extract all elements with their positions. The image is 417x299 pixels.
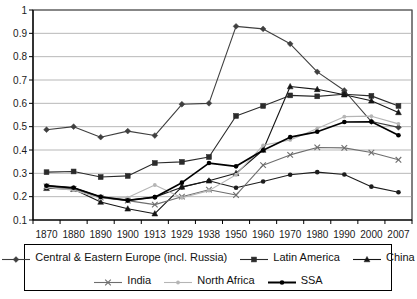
legend-row-secondary: IndiaNorth AfricaSSA [25,268,391,291]
data-point-marker [252,257,257,262]
data-point-marker [125,198,130,203]
data-point-marker [207,161,212,166]
data-point-marker [261,148,266,153]
data-point-marker [179,160,184,165]
data-point-marker [13,257,19,263]
legend-marker-triangle-icon [352,251,382,262]
legend-entry-india[interactable]: India [93,274,151,286]
x-axis-tick-label: 1890 [90,229,113,240]
data-point-marker [176,281,180,285]
data-point-marker [342,172,347,177]
data-point-marker [71,186,76,191]
x-axis-tick-label: 1960 [252,229,275,240]
x-axis-tick-label: 1990 [333,229,356,240]
plot-frame [33,10,412,220]
data-point-marker [234,173,238,177]
data-point-marker [288,172,293,177]
y-axis-tick-label: 0.8 [13,51,27,62]
data-point-marker [279,280,284,285]
data-point-marker [342,115,346,119]
data-point-marker [288,93,293,98]
data-point-marker [369,114,373,118]
legend-marker-dot-icon [163,274,193,285]
data-point-marker [234,164,239,169]
x-axis-tick-label: 1950 [225,229,248,240]
legend-entry-north-africa[interactable]: North Africa [163,274,254,286]
data-point-marker [396,190,401,195]
data-point-marker [288,135,293,140]
data-point-marker [125,174,130,179]
data-point-marker [261,104,266,109]
x-axis-tick-label: 1929 [171,229,194,240]
data-point-marker [71,169,76,174]
data-point-marker [44,170,49,175]
legend-entry-ssa[interactable]: SSA [267,274,323,286]
y-axis-tick-label: 0.5 [13,121,27,132]
x-axis-tick-label: 1880 [62,229,85,240]
y-axis-tick-label: 1 [21,5,27,16]
legend-entry-central-eastern-europe-incl-russia[interactable]: Central & Eastern Europe (incl. Russia) [1,251,227,263]
y-axis-tick-label: 0.9 [13,28,27,39]
chart-legend: Central & Eastern Europe (incl. Russia)L… [24,244,392,291]
y-axis-tick-label: 0.4 [13,145,27,156]
x-axis-tick-label: 1938 [198,229,221,240]
y-axis-tick-label: 0.2 [13,191,27,202]
data-point-marker [261,179,266,184]
x-axis-tick-label: 1980 [306,229,329,240]
data-point-marker [396,133,401,138]
x-axis-tick-label: 2007 [387,229,410,240]
legend-marker-square-icon [239,251,269,262]
y-axis-tick-label: 0.3 [13,168,27,179]
legend-entry-label: SSA [301,274,323,286]
legend-marker-dot-bold-icon [267,274,297,285]
x-axis-tick-label: 1870 [35,229,58,240]
data-point-marker [207,155,212,160]
legend-entry-label: Central & Eastern Europe (incl. Russia) [35,251,227,263]
data-point-marker [315,170,320,175]
data-point-marker [315,94,320,99]
data-point-marker [152,161,157,166]
legend-marker-diamond-icon [1,251,31,262]
data-point-marker [396,104,401,109]
data-point-marker [98,195,103,200]
data-point-marker [180,180,185,185]
data-point-marker [342,120,347,125]
data-point-marker [261,143,265,147]
data-point-marker [369,119,374,124]
legend-entry-label: Latin America [273,251,340,263]
data-point-marker [207,189,211,193]
legend-entry-china[interactable]: China [352,251,415,263]
data-point-marker [234,114,239,119]
data-point-marker [44,183,49,188]
legend-entry-label: India [127,274,151,286]
x-axis-tick-label: 1970 [279,229,302,240]
data-point-marker [369,184,374,189]
legend-entry-latin-america[interactable]: Latin America [239,251,340,263]
data-point-marker [315,130,320,135]
y-axis-tick-label: 0.1 [13,215,27,226]
data-point-marker [234,186,239,191]
x-axis-tick-label: 2000 [360,229,383,240]
legend-entry-label: China [386,251,415,263]
data-point-marker [98,175,103,180]
data-point-marker [153,183,157,187]
y-axis-tick-label: 0.6 [13,98,27,109]
legend-row-primary: Central & Eastern Europe (incl. Russia)L… [25,245,391,268]
data-point-marker [153,195,158,200]
x-axis-tick-label: 1900 [117,229,140,240]
x-axis-tick-label: 1913 [144,229,167,240]
data-point-marker [180,196,184,200]
legend-marker-cross-icon [93,274,123,285]
data-point-marker [397,122,401,126]
legend-entry-label: North Africa [197,274,254,286]
y-axis-tick-label: 0.7 [13,75,27,86]
chart-container: 10.90.80.70.60.50.40.30.20.1187018801890… [0,0,417,299]
